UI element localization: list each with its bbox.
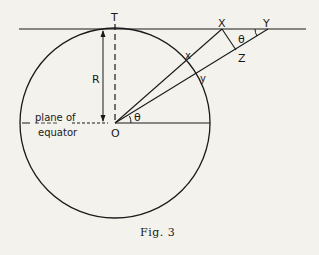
r-arrow-head-bottom xyxy=(101,115,106,122)
r-arrow-head-top xyxy=(101,30,106,37)
label-T: T xyxy=(110,11,118,24)
label-theta-center: θ xyxy=(134,111,141,124)
figure-caption: Fig. 3 xyxy=(140,226,175,239)
label-x: x xyxy=(185,50,191,61)
label-R: R xyxy=(92,73,100,86)
line-OY xyxy=(115,29,268,123)
line-XZ xyxy=(222,29,236,50)
label-plane: plane of xyxy=(35,112,76,123)
line-OX xyxy=(115,29,222,123)
label-equator: equator xyxy=(38,127,78,138)
label-Z: Z xyxy=(238,52,246,65)
label-y: y xyxy=(200,73,206,84)
label-X: X xyxy=(218,17,226,30)
theta-arc-center xyxy=(130,116,132,123)
figure-diagram: T X Y Z x y θ R θ O plane of equator Fig… xyxy=(0,0,319,255)
label-theta-top: θ xyxy=(238,33,245,46)
theta-arc-top xyxy=(255,29,257,36)
label-Y: Y xyxy=(262,17,270,30)
label-O: O xyxy=(111,127,120,140)
